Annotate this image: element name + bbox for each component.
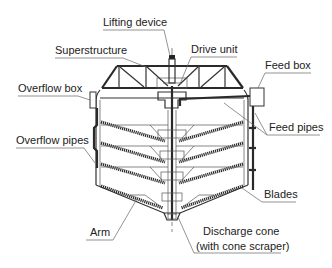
label-feed-box: Feed box [258,59,311,88]
label-blades: Blades [242,188,298,202]
overflow-box [90,92,96,108]
svg-text:Arm: Arm [90,226,110,238]
label-drive-unit: Drive unit [180,43,237,84]
svg-text:Feed box: Feed box [265,59,311,71]
svg-text:Lifting device: Lifting device [103,16,167,28]
label-overflow-box: Overflow box [18,82,90,100]
svg-text:Overflow box: Overflow box [18,82,83,94]
svg-text:Blades: Blades [264,188,298,200]
thickener-diagram: Lifting device Superstructure Drive unit… [0,0,332,268]
svg-text:Discharge cone: Discharge cone [203,225,279,237]
feed-box [250,88,264,106]
label-arm: Arm [86,197,138,240]
label-superstructure: Superstructure [55,44,146,67]
superstructure-truss [102,66,243,88]
svg-text:Superstructure: Superstructure [55,44,127,56]
label-discharge-cone: Discharge cone (with cone scraper) [178,217,290,253]
label-overflow-pipes: Overflow pipes [16,134,95,163]
svg-text:(with cone scraper): (with cone scraper) [196,240,290,252]
svg-text:Feed pipes: Feed pipes [269,121,324,133]
svg-text:Drive unit: Drive unit [191,43,237,55]
label-feed-pipes: Feed pipes [224,103,324,135]
svg-text:Overflow pipes: Overflow pipes [16,134,89,146]
feed-pipes [180,96,256,190]
